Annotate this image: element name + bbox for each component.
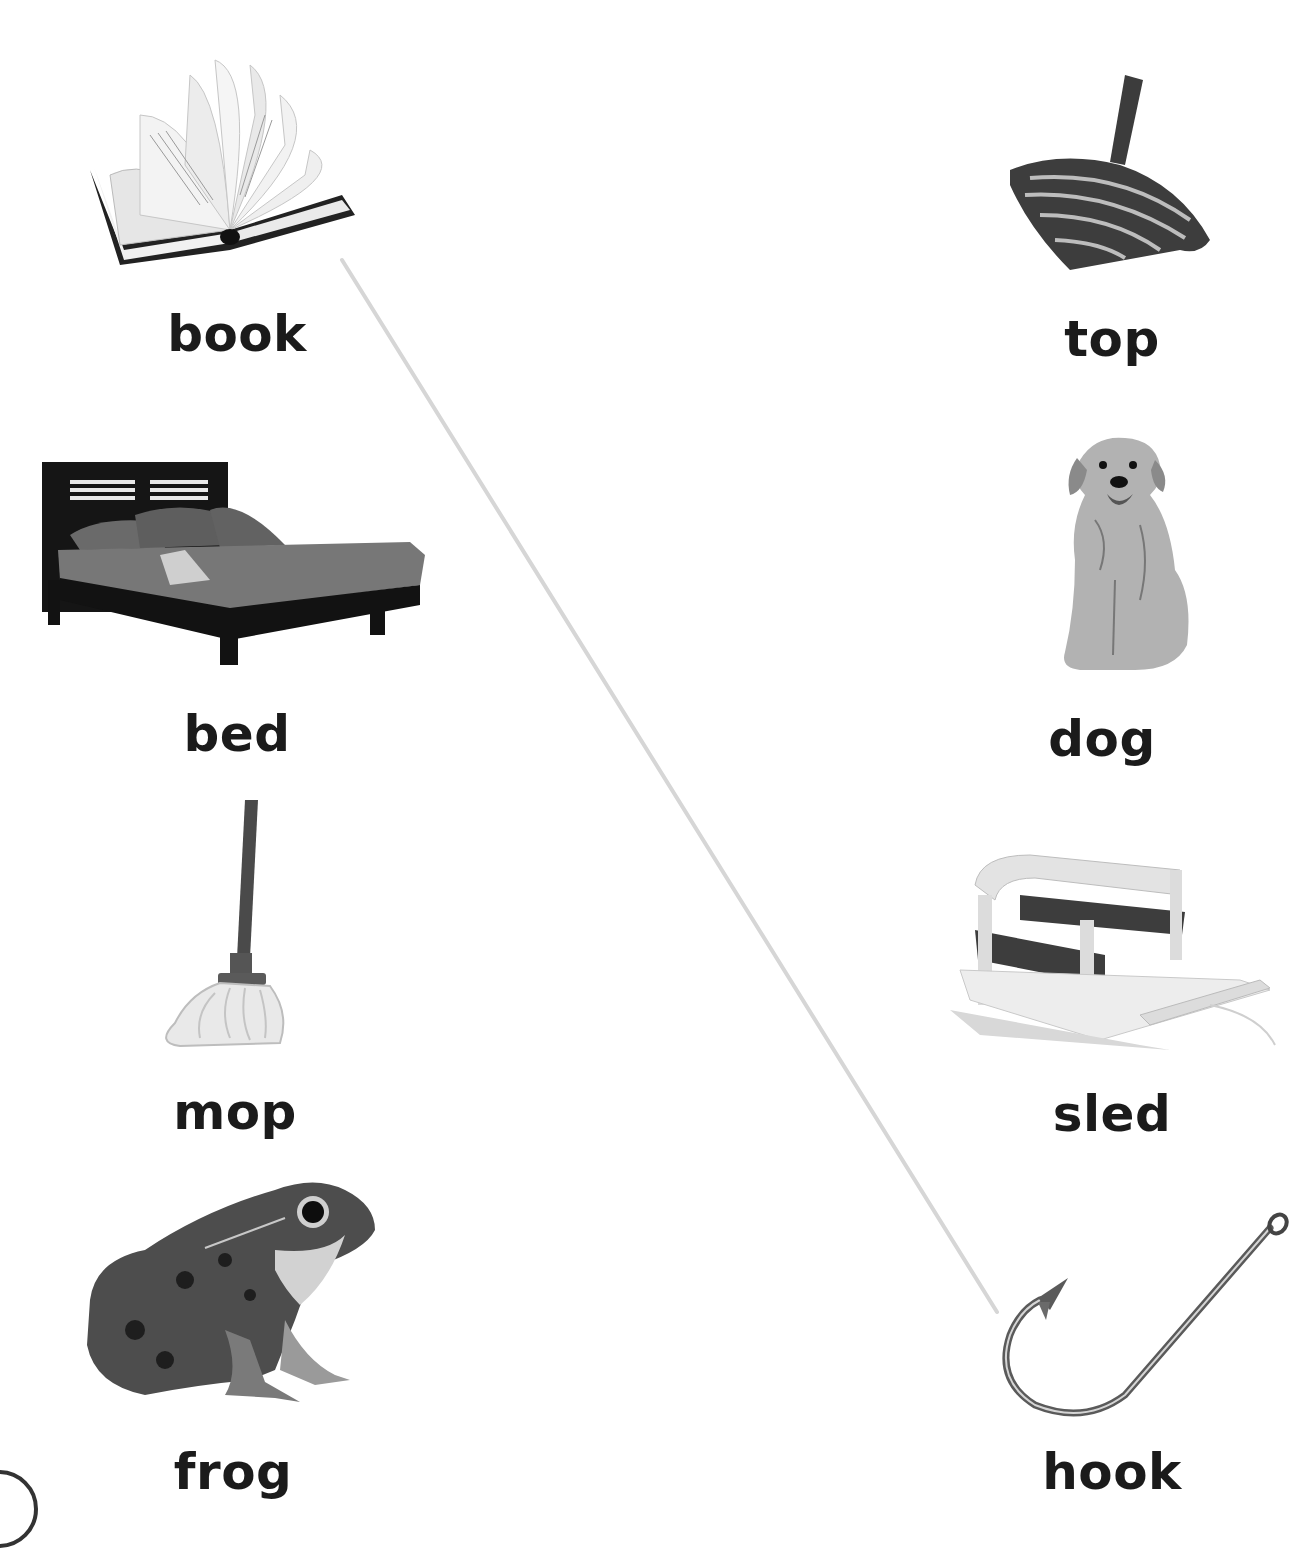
item-sled[interactable] — [940, 840, 1295, 1055]
spinning-top-icon — [1000, 70, 1220, 275]
word-top: top — [982, 310, 1242, 368]
page-number-circle — [0, 1470, 38, 1548]
bed-icon — [40, 460, 430, 670]
dog-icon — [1055, 430, 1195, 675]
fishing-hook-icon — [990, 1210, 1290, 1420]
item-frog[interactable] — [75, 1170, 385, 1410]
item-bed[interactable] — [40, 460, 430, 670]
word-hook: hook — [982, 1443, 1242, 1501]
frog-icon — [75, 1170, 385, 1410]
sled-icon — [940, 840, 1295, 1055]
word-sled: sled — [982, 1085, 1242, 1143]
word-bed: bed — [107, 705, 367, 763]
item-dog[interactable] — [1055, 430, 1195, 675]
mop-icon — [150, 798, 295, 1053]
item-mop[interactable] — [150, 798, 295, 1053]
word-mop: mop — [105, 1083, 365, 1141]
word-book: book — [107, 305, 367, 363]
word-dog: dog — [972, 710, 1232, 768]
word-frog: frog — [103, 1443, 363, 1501]
item-top[interactable] — [1000, 70, 1220, 275]
book-icon — [80, 55, 370, 285]
item-book[interactable] — [80, 55, 370, 285]
item-hook[interactable] — [990, 1210, 1290, 1420]
